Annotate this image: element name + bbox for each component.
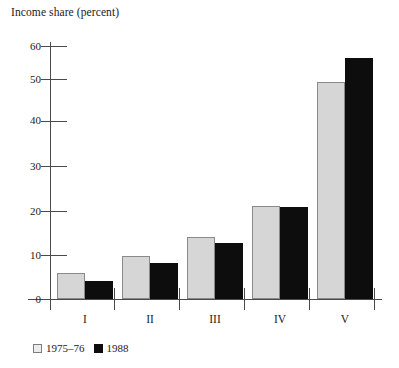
y-tick-mark-40 <box>41 121 67 122</box>
x-tick-label-III: III <box>185 313 245 325</box>
y-tick-label-20: 20 <box>15 206 41 217</box>
light-square-swatch-icon <box>33 344 42 353</box>
chart-legend: 1975–76 1988 <box>33 342 129 354</box>
x-tick-mark-2 <box>179 288 180 310</box>
legend-label-1975-76: 1975–76 <box>46 342 85 354</box>
bar-III-1988 <box>215 243 243 299</box>
bar-I-1975-76 <box>57 273 85 299</box>
y-tick-mark-60 <box>41 46 67 47</box>
bar-II-1988 <box>150 263 178 300</box>
y-tick-label-30: 30 <box>15 161 41 172</box>
x-tick-mark-3 <box>244 288 245 310</box>
y-tick-label-10: 10 <box>15 250 41 261</box>
y-tick-mark-10 <box>41 255 67 256</box>
dark-square-swatch-icon <box>94 344 103 353</box>
legend-entry-1975-76: 1975–76 <box>33 342 85 354</box>
y-tick-mark-50 <box>41 79 67 80</box>
legend-entry-1988: 1988 <box>94 342 129 354</box>
x-tick-label-II: II <box>120 313 180 325</box>
x-tick-mark-5 <box>374 288 375 310</box>
x-tick-mark-0 <box>50 299 51 310</box>
legend-label-1988: 1988 <box>107 342 129 354</box>
x-tick-label-I: I <box>55 313 115 325</box>
y-tick-label-0: 0 <box>15 294 41 305</box>
y-axis-line <box>50 42 51 310</box>
bar-V-1975-76 <box>317 82 345 299</box>
bar-V-1988 <box>345 58 373 299</box>
y-tick-mark-30 <box>41 166 67 167</box>
x-axis-line <box>28 299 382 300</box>
x-tick-mark-4 <box>309 288 310 310</box>
plot-area: 60 50 40 30 20 10 0 <box>0 0 399 368</box>
bar-II-1975-76 <box>122 256 150 299</box>
income-share-bar-chart: Income share (percent) 60 50 40 30 20 10… <box>0 0 399 368</box>
x-tick-label-IV: IV <box>250 313 310 325</box>
x-tick-label-V: V <box>315 313 375 325</box>
bar-IV-1975-76 <box>252 206 280 299</box>
bar-III-1975-76 <box>187 237 215 299</box>
bar-IV-1988 <box>280 207 308 299</box>
y-tick-label-50: 50 <box>15 74 41 85</box>
y-tick-mark-20 <box>41 211 67 212</box>
bar-I-1988 <box>85 281 113 299</box>
y-tick-label-40: 40 <box>15 115 41 126</box>
x-tick-mark-1 <box>114 288 115 310</box>
y-tick-label-60: 60 <box>15 41 41 52</box>
